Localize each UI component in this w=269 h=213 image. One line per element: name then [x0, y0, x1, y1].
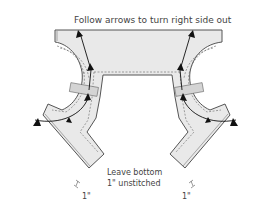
- right-measure-tick: [189, 180, 195, 188]
- bottom-note-line1: Leave bottom: [107, 168, 162, 177]
- right-measure-label: 1": [182, 192, 191, 201]
- left-arrow-head-left: [33, 118, 41, 126]
- left-measure-tick: [74, 180, 80, 188]
- left-measure-label: 1": [82, 192, 91, 201]
- bottom-note-line2: 1" unstitched: [107, 179, 161, 188]
- garment-piece: [43, 30, 230, 168]
- sewing-diagram: Follow arrows to turn right side out Lea…: [0, 0, 269, 213]
- garment-outline: [43, 30, 230, 168]
- instruction-title: Follow arrows to turn right side out: [74, 15, 232, 25]
- right-arrow-head-right: [230, 118, 238, 126]
